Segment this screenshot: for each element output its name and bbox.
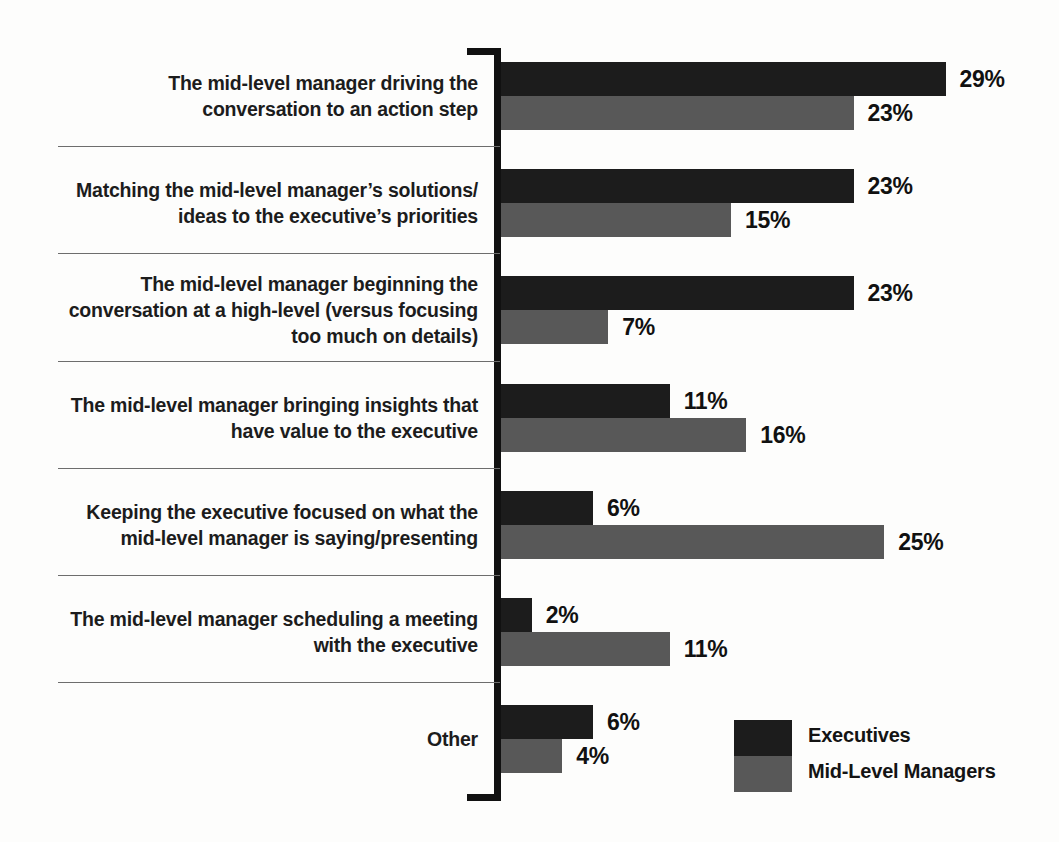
bar-value-label: 6% xyxy=(607,494,640,521)
bar-rect xyxy=(501,169,854,203)
category-label-line: with the executive xyxy=(30,632,478,658)
chart-row: The mid-level manager scheduling a meeti… xyxy=(0,584,1059,691)
bar-rect xyxy=(501,276,854,310)
category-label-line: The mid-level manager bringing insights … xyxy=(30,392,478,418)
category-label-line: conversation to an action step xyxy=(30,96,478,122)
bar-rect xyxy=(501,310,608,344)
bar-rect xyxy=(501,491,593,525)
bar-executives: 11% xyxy=(501,384,1041,418)
row-separator xyxy=(58,146,500,147)
bar-value-label: 25% xyxy=(898,528,943,555)
category-label: The mid-level manager beginning theconve… xyxy=(30,271,478,349)
bar-value-label: 29% xyxy=(960,66,1005,93)
bar-rect xyxy=(501,632,670,666)
category-label-line: Matching the mid-level manager’s solutio… xyxy=(30,177,478,203)
row-separator xyxy=(58,682,500,683)
bar-value-label: 11% xyxy=(684,387,728,414)
bar-mid-level-managers: 15% xyxy=(501,203,1041,237)
category-label-line: ideas to the executive’s priorities xyxy=(30,203,478,229)
bar-value-label: 6% xyxy=(607,709,640,736)
legend-label-executives: Executives xyxy=(808,724,911,747)
bar-value-label: 23% xyxy=(868,173,913,200)
chart-row: Keeping the executive focused on what th… xyxy=(0,477,1059,584)
bar-value-label: 11% xyxy=(684,636,728,663)
bar-rect xyxy=(501,525,884,559)
bar-value-label: 4% xyxy=(576,743,609,770)
chart-row: The mid-level manager bringing insights … xyxy=(0,370,1059,477)
row-separator xyxy=(58,468,500,469)
bar-executives: 2% xyxy=(501,598,1041,632)
category-label-line: The mid-level manager driving the xyxy=(30,70,478,96)
bar-mid-level-managers: 16% xyxy=(501,418,1041,452)
bar-rect xyxy=(501,705,593,739)
bar-value-label: 7% xyxy=(622,314,655,341)
chart-row: Matching the mid-level manager’s solutio… xyxy=(0,155,1059,262)
bar-rect xyxy=(501,96,854,130)
legend-swatch-executives xyxy=(734,720,792,756)
bar-rect xyxy=(501,384,670,418)
category-label-line: too much on details) xyxy=(30,323,478,349)
legend-swatch-group xyxy=(734,720,792,792)
legend-swatch-mid-level-managers xyxy=(734,756,792,792)
chart-container: The mid-level manager driving theconvers… xyxy=(0,0,1059,842)
bar-rect xyxy=(501,62,946,96)
category-label: The mid-level manager bringing insights … xyxy=(30,392,478,444)
row-separator xyxy=(58,253,500,254)
bar-mid-level-managers: 23% xyxy=(501,96,1041,130)
bar-value-label: 2% xyxy=(546,602,579,629)
category-label: The mid-level manager driving theconvers… xyxy=(30,70,478,122)
category-label-line: Other xyxy=(30,726,478,752)
category-label: The mid-level manager scheduling a meeti… xyxy=(30,606,478,658)
bar-executives: 23% xyxy=(501,276,1041,310)
category-label-line: conversation at a high-level (versus foc… xyxy=(30,297,478,323)
bar-rect xyxy=(501,418,746,452)
category-label-line: The mid-level manager beginning the xyxy=(30,271,478,297)
bar-value-label: 23% xyxy=(868,280,913,307)
category-label-line: have value to the executive xyxy=(30,418,478,444)
bar-mid-level-managers: 25% xyxy=(501,525,1041,559)
category-label: Matching the mid-level manager’s solutio… xyxy=(30,177,478,229)
chart-row: The mid-level manager beginning theconve… xyxy=(0,262,1059,369)
bar-mid-level-managers: 11% xyxy=(501,632,1041,666)
category-label-line: Keeping the executive focused on what th… xyxy=(30,499,478,525)
row-separator xyxy=(58,575,500,576)
category-label: Keeping the executive focused on what th… xyxy=(30,499,478,551)
category-label: Other xyxy=(30,726,478,752)
bar-value-label: 23% xyxy=(868,100,913,127)
bar-executives: 29% xyxy=(501,62,1041,96)
bar-executives: 6% xyxy=(501,491,1041,525)
bar-rect xyxy=(501,203,731,237)
bar-rect xyxy=(501,598,532,632)
bar-mid-level-managers: 7% xyxy=(501,310,1041,344)
bar-executives: 23% xyxy=(501,169,1041,203)
legend-label-mid-level-managers: Mid-Level Managers xyxy=(808,760,996,783)
plot-area: The mid-level manager driving theconvers… xyxy=(0,0,1059,842)
category-label-line: The mid-level manager scheduling a meeti… xyxy=(30,606,478,632)
category-label-line: mid-level manager is saying/presenting xyxy=(30,525,478,551)
row-separator xyxy=(58,361,500,362)
chart-row: The mid-level manager driving theconvers… xyxy=(0,48,1059,155)
bar-rect xyxy=(501,739,562,773)
bar-value-label: 16% xyxy=(760,421,805,448)
bar-value-label: 15% xyxy=(745,207,790,234)
